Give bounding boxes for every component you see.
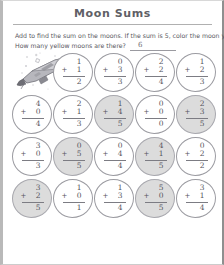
moon-row: 3+251+011+345+053+14 [11,177,217,219]
sum-value: 1 [61,204,85,213]
addend-bottom: +5 [61,150,85,159]
moon-colored[interactable]: 0+55 [53,137,93,176]
moon[interactable]: 4+04 [12,95,52,134]
addend-bottom: +0 [20,150,44,159]
addend-bottom: +1 [184,192,208,201]
moon-slot: 3+25 [11,177,52,219]
plus-icon: + [62,66,68,75]
moon[interactable]: 0+00 [135,95,175,134]
answer-value: 6 [138,40,142,50]
moon[interactable]: 0+44 [94,137,134,176]
moon-row: 3+030+550+444+150+22 [11,135,217,177]
addend-bottom: +2 [184,150,208,159]
addition-problem: 3+14 [184,184,208,213]
plus-icon: + [21,192,27,201]
moon-row: 1+120+332+241+23 [11,51,217,93]
moon-slot: 2+35 [175,93,216,135]
plus-icon: + [144,66,150,75]
sum-value: 4 [102,162,126,171]
moon[interactable]: 1+01 [53,179,93,218]
plus-icon: + [62,192,68,201]
plus-icon: + [185,108,191,117]
addend-bottom-value: 4 [118,107,123,116]
addend-bottom-value: 2 [200,65,205,74]
moon[interactable]: 2+24 [135,53,175,92]
moon-slot: 1+01 [52,177,93,219]
plus-icon: + [144,150,150,159]
moon[interactable]: 3+03 [12,137,52,176]
addend-bottom-value: 1 [77,107,82,116]
answer-blank[interactable]: 6 [130,41,176,51]
addend-bottom: +3 [184,108,208,117]
moon-colored[interactable]: 1+45 [94,95,134,134]
moon[interactable]: 1+12 [53,53,93,92]
sum-value: 5 [20,204,44,213]
sum-value: 0 [143,120,167,129]
moon[interactable]: 2+13 [53,95,93,134]
plus-icon: + [144,192,150,201]
addend-bottom-value: 3 [118,191,123,200]
moon-colored[interactable]: 3+25 [12,179,52,218]
addend-bottom-value: 0 [159,191,164,200]
page-title: Moon Sums [11,7,214,20]
sum-value: 4 [184,204,208,213]
sum-value: 3 [20,162,44,171]
plus-icon: + [62,150,68,159]
sum-value: 2 [184,162,208,171]
addend-bottom-value: 4 [118,149,123,158]
moon[interactable]: 1+23 [176,53,216,92]
moon-slot: 0+22 [175,135,216,177]
moon-slot: 2+24 [134,51,175,93]
title-divider [13,24,212,25]
sum-value: 5 [143,204,167,213]
addend-bottom-value: 3 [200,107,205,116]
moon-slot: 1+12 [52,51,93,93]
plus-icon: + [21,150,27,159]
plus-icon: + [21,108,27,117]
plus-icon: + [185,150,191,159]
moon[interactable]: 3+14 [176,179,216,218]
sum-value: 5 [102,120,126,129]
instruction-line-1: Add to find the sum on the moons. If the… [15,31,214,41]
addend-bottom: +1 [143,150,167,159]
addend-bottom: +2 [143,66,167,75]
moon-slot: 0+33 [93,51,134,93]
moon-slot: 3+03 [11,135,52,177]
addend-bottom: +4 [102,150,126,159]
plus-icon: + [103,192,109,201]
plus-icon: + [103,66,109,75]
sum-value: 2 [61,78,85,87]
addend-bottom: +3 [102,66,126,75]
moon[interactable]: 1+34 [94,179,134,218]
addition-problem: 0+44 [102,142,126,171]
moon-colored[interactable]: 5+05 [135,179,175,218]
addition-problem: 0+55 [61,142,85,171]
moon-colored[interactable]: 2+35 [176,95,216,134]
sum-value: 3 [61,120,85,129]
addition-problem: 2+35 [184,100,208,129]
addition-problem: 3+25 [20,184,44,213]
addend-bottom: +0 [20,108,44,117]
instructions-block: Add to find the sum on the moons. If the… [11,31,214,51]
addition-problem: 2+13 [61,100,85,129]
addition-problem: 0+33 [102,58,126,87]
addend-bottom: +2 [184,66,208,75]
plus-icon: + [185,192,191,201]
sum-value: 4 [102,204,126,213]
addend-bottom: +0 [143,108,167,117]
moon-slot: 3+14 [175,177,216,219]
moon-slot: 0+55 [52,135,93,177]
worksheet-content: Moon Sums Add to find the sum on the moo… [11,5,214,261]
addition-problem: 0+00 [143,100,167,129]
worksheet-page: Moon Sums Add to find the sum on the moo… [0,0,224,265]
addend-bottom-value: 2 [200,149,205,158]
moon-slot: 0+00 [134,93,175,135]
addend-bottom-value: 5 [77,149,82,158]
addition-problem: 1+12 [61,58,85,87]
moon[interactable]: 0+33 [94,53,134,92]
addend-bottom-value: 2 [36,191,41,200]
moon[interactable]: 0+22 [176,137,216,176]
moon-slot: 0+44 [93,135,134,177]
moon-colored[interactable]: 4+15 [135,137,175,176]
addend-bottom-value: 0 [77,191,82,200]
